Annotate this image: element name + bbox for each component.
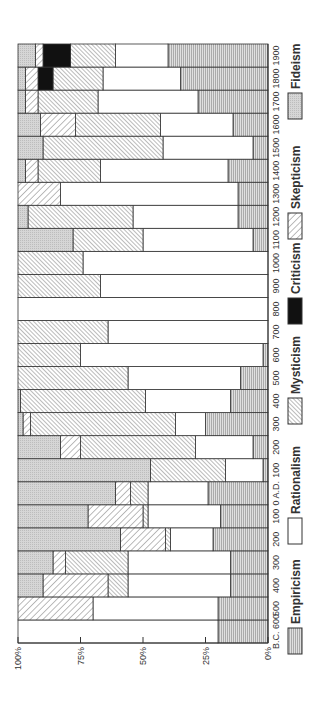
category-label: 1500 — [271, 138, 281, 158]
segment-fideism — [18, 459, 151, 482]
segment-rationalism — [161, 113, 234, 136]
bar-24 — [18, 67, 268, 90]
legend-label: Fideism — [289, 44, 303, 89]
segment-fideism — [18, 113, 41, 136]
bar-16 — [18, 251, 268, 274]
segment-empiricism — [218, 620, 268, 643]
bar-23 — [18, 90, 268, 113]
segment-fideism — [18, 413, 23, 436]
segment-empiricism — [233, 113, 268, 136]
tick-label: 100% — [13, 647, 23, 670]
segment-rationalism — [128, 551, 231, 574]
category-label: 100 — [271, 509, 281, 524]
segment-empiricism — [213, 528, 268, 551]
segment-criticism — [43, 44, 71, 67]
segment-rationalism — [103, 67, 181, 90]
segment-mysticism — [31, 413, 176, 436]
segment-rationalism — [18, 620, 218, 643]
category-label: 400 — [271, 394, 281, 409]
segment-fideism — [18, 67, 26, 90]
segment-mysticism — [73, 228, 143, 251]
legend-item-fideism: Fideism — [288, 44, 303, 119]
segment-skepticism — [88, 505, 143, 528]
segment-fideism — [18, 390, 21, 413]
bar-3 — [18, 551, 268, 574]
legend-item-empiricism: Empiricism — [288, 559, 303, 654]
legend-swatch — [288, 398, 302, 424]
bar-4 — [18, 528, 268, 551]
category-label: 700 — [271, 324, 281, 339]
legend-label: Empiricism — [289, 559, 303, 624]
segment-empiricism — [231, 551, 269, 574]
segment-fideism — [18, 90, 26, 113]
category-label: 1600 — [271, 115, 281, 135]
bar-21 — [18, 136, 268, 159]
segment-skepticism — [41, 113, 76, 136]
segment-rationalism — [226, 459, 264, 482]
bar-17 — [18, 228, 268, 251]
category-label: 500 — [271, 371, 281, 386]
segment-skepticism — [23, 413, 31, 436]
segment-mysticism — [81, 436, 196, 459]
category-label: 1700 — [271, 92, 281, 112]
bar-22 — [18, 113, 268, 136]
segment-fideism — [18, 482, 116, 505]
legend-swatch — [288, 628, 302, 654]
category-label: 900 — [271, 278, 281, 293]
segment-mysticism — [28, 205, 133, 228]
segment-rationalism — [133, 205, 238, 228]
segment-fideism — [18, 574, 43, 597]
category-label: 1200 — [271, 207, 281, 227]
bar-6 — [18, 482, 268, 505]
segment-rationalism — [148, 505, 221, 528]
segment-mysticism — [151, 459, 226, 482]
segment-skepticism — [121, 528, 166, 551]
segment-fideism — [18, 436, 61, 459]
segment-skepticism — [26, 67, 39, 90]
category-label: 1900 — [271, 45, 281, 65]
legend-item-rationalism: Rationalism — [288, 446, 303, 544]
legend: EmpiricismRationalismMysticismCriticismS… — [288, 44, 303, 654]
segment-empiricism — [198, 90, 268, 113]
segment-mysticism — [38, 159, 101, 182]
segment-empiricism — [241, 367, 269, 390]
segment-mysticism — [18, 274, 101, 297]
segment-rationalism — [83, 251, 268, 274]
segment-empiricism — [206, 413, 269, 436]
bar-25 — [18, 44, 268, 67]
segment-rationalism — [171, 528, 214, 551]
tick-label: 75% — [76, 647, 86, 665]
segment-criticism — [38, 67, 53, 90]
legend-label: Mysticism — [289, 336, 303, 394]
legend-label: Criticism — [289, 243, 303, 294]
category-label: 100 — [271, 463, 281, 478]
segment-mysticism — [143, 505, 148, 528]
segment-rationalism — [163, 136, 253, 159]
bar-1 — [18, 597, 268, 620]
segment-rationalism — [148, 482, 208, 505]
tick-label: 25% — [201, 647, 211, 665]
segment-rationalism — [128, 367, 241, 390]
legend-item-criticism: Criticism — [288, 243, 303, 324]
tick-label: 50% — [138, 647, 148, 665]
segment-skepticism — [26, 159, 39, 182]
segment-empiricism — [181, 67, 269, 90]
segment-fideism — [18, 44, 36, 67]
segment-mysticism — [53, 67, 103, 90]
segment-empiricism — [218, 597, 268, 620]
bar-13 — [18, 320, 268, 343]
category-label: 500 — [271, 601, 281, 616]
segment-empiricism — [231, 574, 269, 597]
category-label: 1100 — [271, 230, 281, 249]
category-label: 1300 — [271, 184, 281, 204]
segment-mysticism — [18, 367, 128, 390]
bar-9 — [18, 413, 268, 436]
segment-rationalism — [146, 390, 231, 413]
segment-rationalism — [18, 297, 268, 320]
bars-group — [18, 44, 268, 643]
segment-skepticism — [116, 482, 131, 505]
segment-fideism — [18, 551, 53, 574]
segment-skepticism — [26, 90, 39, 113]
legend-label: Rationalism — [289, 446, 303, 514]
segment-empiricism — [228, 159, 268, 182]
